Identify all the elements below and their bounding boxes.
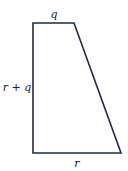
trapezoid-diagram: q r + q r <box>0 0 128 171</box>
left-side-label: r + q <box>3 81 32 94</box>
top-side-label: q <box>50 8 57 21</box>
trapezoid-shape <box>33 23 121 153</box>
bottom-side-label: r <box>74 157 80 170</box>
